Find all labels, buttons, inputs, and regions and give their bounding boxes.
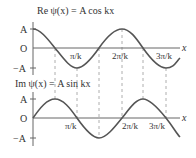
- top-tick-pi: π/k: [70, 51, 82, 61]
- bottom-x-axis-label: x: [181, 112, 187, 123]
- top-y-label-zero: O: [20, 43, 27, 54]
- top-y-label-pos: A: [20, 24, 28, 35]
- bottom-tick-pi: π/k: [65, 121, 77, 131]
- top-tick-3pi: 3π/k: [156, 51, 173, 61]
- top-plot: Re ψ(x) = A cos kx A O −A x π/k 2π/k 3π/…: [13, 5, 187, 75]
- top-title: Re ψ(x) = A cos kx: [37, 5, 114, 17]
- bottom-tick-3pi: 3π/k: [149, 121, 166, 131]
- bottom-tick-2pi: 2π/k: [122, 121, 139, 131]
- bottom-plot: Im ψ(x) = A sin kx A O −A x π/k 2π/k 3π/…: [13, 78, 187, 146]
- top-y-label-neg: −A: [13, 63, 27, 74]
- bottom-y-label-pos: A: [20, 94, 28, 105]
- wave-figure: Re ψ(x) = A cos kx A O −A x π/k 2π/k 3π/…: [0, 0, 196, 158]
- top-tick-2pi: 2π/k: [112, 51, 129, 61]
- bottom-y-label-zero: O: [20, 113, 27, 124]
- bottom-title: Im ψ(x) = A sin kx: [15, 78, 91, 90]
- top-x-axis-label: x: [181, 42, 187, 53]
- bottom-y-label-neg: −A: [13, 133, 27, 144]
